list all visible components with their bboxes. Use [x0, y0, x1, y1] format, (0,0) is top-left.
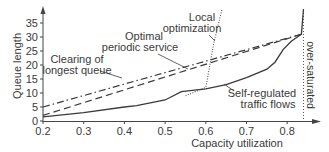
x-axis-arrow-icon	[312, 119, 321, 124]
y-tick-label: 15	[26, 73, 38, 85]
x-tick-label: 0.7	[239, 125, 254, 137]
x-tick-label: 0.4	[117, 125, 132, 137]
y-tick-label: 25	[26, 45, 38, 57]
y-tick-label: 35	[26, 17, 38, 29]
annotation-optimal-line2: periodic service	[102, 41, 178, 53]
y-tick-label: 10	[26, 87, 38, 99]
x-tick-label: 0.6	[198, 125, 213, 137]
annotation-clearing-line2: longest queue	[42, 64, 111, 76]
y-axis-label: Queue length	[11, 33, 23, 99]
annotation-self-regulated: Self-regulated traffic flows	[224, 84, 296, 110]
x-tick-label: 0.2	[35, 125, 50, 137]
annotation-clearing: Clearing of longest queue	[42, 53, 122, 78]
queue-length-chart: 05101520253035 0.20.30.40.50.60.70.8 Que…	[0, 0, 329, 152]
y-tick-label: 30	[26, 31, 38, 43]
x-tick-label: 0.8	[280, 125, 295, 137]
annotation-local: Local optimization	[163, 11, 222, 41]
x-tick-label: 0.5	[157, 125, 172, 137]
annotation-self-line2: traffic flows	[241, 98, 296, 110]
annotation-local-leader	[209, 35, 215, 41]
annotation-optimal-leader	[158, 54, 188, 69]
x-tick-labels: 0.20.30.40.50.60.70.8	[35, 125, 294, 137]
annotation-optimal: Optimal periodic service	[102, 30, 188, 69]
y-tick-label: 20	[26, 59, 38, 71]
over-saturated-label: over-saturated	[305, 41, 317, 109]
y-axis-arrow-icon	[41, 6, 46, 14]
x-axis-label: Capacity utilization	[191, 137, 283, 149]
y-tick-labels: 05101520253035	[26, 17, 38, 127]
x-tick-label: 0.3	[76, 125, 91, 137]
annotation-local-line2: optimization	[163, 22, 222, 34]
y-tick-label: 5	[32, 101, 38, 113]
